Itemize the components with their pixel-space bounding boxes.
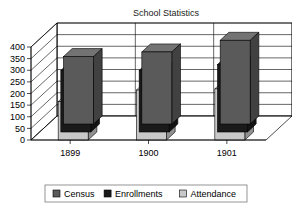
y-axis-tick-label: 400 (10, 42, 25, 52)
x-axis-category-label: 1900 (138, 148, 158, 158)
school-statistics-3d-bar-chart: 050100150200250300350400189919001901Scho… (0, 0, 292, 211)
legend-label-enrollments: Enrollments (115, 189, 163, 199)
chart-title: School Statistics (133, 8, 200, 18)
bar (220, 32, 259, 124)
chart-container: 050100150200250300350400189919001901Scho… (0, 0, 292, 211)
y-axis-tick-label: 250 (10, 77, 25, 87)
bar-side-face (94, 49, 103, 124)
bar (142, 44, 181, 124)
y-axis-tick-label: 0 (20, 135, 25, 145)
y-axis-tick-label: 350 (10, 54, 25, 64)
bar (64, 49, 103, 124)
bar-front-face (142, 52, 172, 124)
legend-label-attendance: Attendance (190, 189, 236, 199)
y-axis-tick-label: 150 (10, 100, 25, 110)
legend-swatch-census (53, 190, 60, 197)
y-axis-tick-label: 100 (10, 112, 25, 122)
bar-front-face (220, 40, 250, 124)
x-axis-category-label: 1899 (60, 148, 80, 158)
bar-front-face (64, 57, 94, 124)
legend-label-census: Census (64, 189, 95, 199)
x-axis-category-label: 1901 (217, 148, 237, 158)
y-axis-tick-label: 300 (10, 65, 25, 75)
legend-item-census[interactable]: Census (53, 189, 95, 199)
y-axis-tick-label: 50 (15, 124, 25, 134)
legend-swatch-enrollments (104, 190, 111, 197)
bar-side-face (250, 32, 259, 124)
y-axis-tick-label: 200 (10, 89, 25, 99)
legend-swatch-attendance (179, 190, 186, 197)
bar-side-face (172, 44, 181, 124)
